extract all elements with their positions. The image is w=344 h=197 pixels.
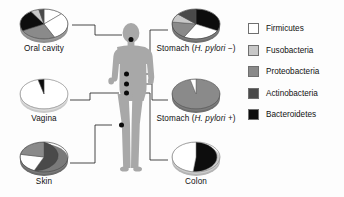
figure-canvas: Oral cavity Vagina [0,0,344,197]
pie-vagina-graphic [14,74,74,118]
pie-colon-graphic [166,137,226,181]
legend-item-proteobacteria: Proteobacteria [248,61,319,83]
pie-stomach-hp-negative-graphic [166,4,226,48]
marker-leg-skin [119,123,124,128]
pie-chart-vagina: Vagina [14,74,74,118]
pie-label-vagina: Vagina [31,114,57,123]
pie-label-oral-cavity: Oral cavity [24,44,64,53]
label-suffix-hp-negative: −) [226,44,236,53]
legend-swatch-actinobacteria [248,88,259,99]
pie-chart-colon: Colon [166,137,226,181]
legend-swatch-proteobacteria [248,66,259,77]
marker-mouth [129,37,134,42]
legend: Firmicutes Fusobacteria Proteobacteria A… [248,18,319,126]
pie-chart-stomach-hp-negative: Stomach (H. pylori −) [166,4,226,48]
pie-skin-graphic [14,137,74,181]
legend-swatch-bacteroidetes [248,109,259,120]
legend-label-firmicutes: Firmicutes [266,24,304,33]
label-italic-hp-negative: H. pylori [195,44,226,53]
pie-label-colon: Colon [185,177,207,186]
legend-item-actinobacteria: Actinobacteria [248,83,319,105]
legend-label-proteobacteria: Proteobacteria [266,67,319,76]
legend-label-actinobacteria: Actinobacteria [266,89,318,98]
pie-chart-skin: Skin [14,137,74,181]
legend-swatch-firmicutes [248,23,259,34]
legend-label-bacteroidetes: Bacteroidetes [266,110,316,119]
legend-item-bacteroidetes: Bacteroidetes [248,104,319,126]
human-silhouette [103,22,159,172]
pie-label-stomach-hp-negative: Stomach (H. pylori −) [156,44,235,53]
legend-swatch-fusobacteria [248,45,259,56]
label-prefix-hp-negative: Stomach ( [156,44,194,53]
pie-stomach-hp-positive-graphic [166,74,226,118]
marker-stomach [124,72,129,77]
marker-colon [124,82,129,87]
legend-label-fusobacteria: Fusobacteria [266,46,313,55]
label-suffix-hp-positive: +) [226,114,236,123]
pie-label-stomach-hp-positive: Stomach (H. pylori +) [156,114,235,123]
legend-item-firmicutes: Firmicutes [248,18,319,40]
label-prefix-hp-positive: Stomach ( [156,114,194,123]
pie-label-skin: Skin [36,177,52,186]
label-italic-hp-positive: H. pylori [195,114,226,123]
legend-item-fusobacteria: Fusobacteria [248,40,319,62]
pie-oral-cavity-graphic [14,4,74,48]
marker-groin [124,91,129,96]
pie-chart-stomach-hp-positive: Stomach (H. pylori +) [166,74,226,118]
pie-chart-oral-cavity: Oral cavity [14,4,74,48]
